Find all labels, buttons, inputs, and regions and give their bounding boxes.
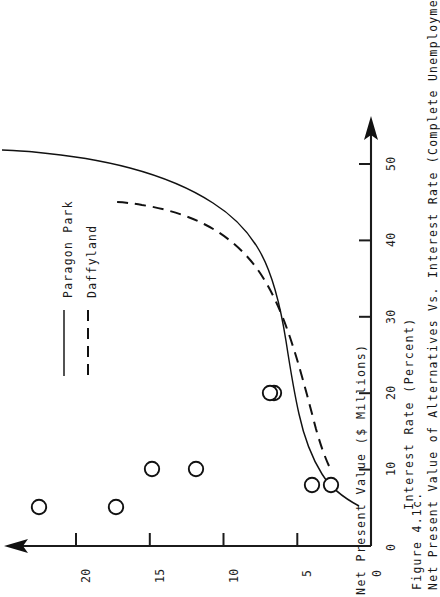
x-tick-label-0: 0: [386, 544, 398, 551]
data-point-marker: [305, 478, 319, 492]
legend-label-daffyland: Daffyland: [87, 225, 98, 298]
net-present-value-ticks: [76, 533, 297, 546]
x-tick-label-20: 20: [386, 385, 398, 400]
x-axis-title: Interest Rate (Percent): [404, 317, 416, 510]
y-tick-label-0: 0: [372, 570, 384, 577]
data-point-marker: [324, 478, 338, 492]
series-daffyland: [109, 202, 329, 514]
x-tick-label-40: 40: [386, 232, 398, 247]
figure-caption: Net Present Value of Alternatives Vs. In…: [428, 0, 439, 590]
legend-line-samples: [64, 310, 88, 376]
data-point-marker: [32, 500, 46, 514]
y-tick-label-5: 5: [302, 570, 314, 577]
y-axis-title: Net Present Value ($ Millions): [356, 344, 368, 595]
x-tick-label-10: 10: [386, 461, 398, 476]
data-point-marker: [263, 386, 277, 400]
data-point-marker: [189, 462, 203, 476]
data-point-marker: [145, 462, 159, 476]
x-tick-label-30: 30: [386, 309, 398, 324]
legend-label-paragon-park: Paragon Park: [63, 200, 74, 298]
y-tick-label-15: 15: [155, 568, 167, 583]
y-tick-label-10: 10: [229, 568, 241, 583]
data-point-marker: [109, 500, 123, 514]
y-tick-label-20: 20: [81, 568, 93, 583]
x-tick-label-50: 50: [386, 156, 398, 171]
figure-number: Figure 4.1c.: [412, 492, 423, 591]
net-present-value-axis: [4, 533, 371, 553]
series-paragon-park: [2, 150, 359, 514]
